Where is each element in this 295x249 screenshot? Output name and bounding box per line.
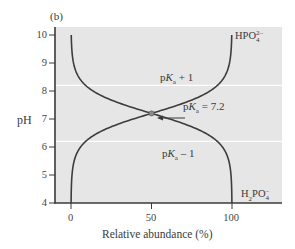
pka-value-label: pKa = 7.2 (183, 101, 224, 112)
y-tick-label: 7 (42, 114, 47, 125)
pka-point (149, 111, 154, 116)
hpo4-series-label: HPO2–4 (235, 30, 263, 44)
y-tick-label: 5 (42, 170, 47, 181)
plot-area (55, 27, 282, 203)
x-tick-label: 0 (68, 213, 73, 224)
x-tick-label: 50 (146, 213, 157, 224)
y-ticks (49, 35, 55, 203)
y-tick-label: 9 (42, 58, 47, 69)
y-tick-label: 4 (42, 198, 47, 209)
y-tick-label: 10 (37, 30, 48, 41)
h2po4-series-label: H2PO–4 (241, 188, 269, 202)
y-tick-label: 6 (42, 142, 47, 153)
x-tick-label: 100 (223, 213, 239, 224)
panel-label: (b) (50, 11, 63, 22)
pka-minus-one-label: pKa – 1 (162, 148, 194, 159)
x-ticks (71, 203, 232, 209)
y-axis-label: pH (17, 114, 32, 126)
x-axis-label: Relative abundance (%) (102, 229, 212, 241)
pka-plus-one-label: pKa + 1 (160, 72, 193, 83)
y-tick-label: 8 (42, 86, 47, 97)
